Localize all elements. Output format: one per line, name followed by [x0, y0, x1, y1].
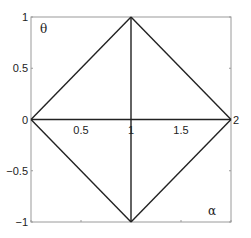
x-tick-label: 1.5	[173, 124, 188, 136]
series-line	[131, 17, 231, 120]
y-tick-label: 0	[22, 114, 28, 126]
chart: −1−0.500.51 0.511.52 θ α	[0, 0, 251, 238]
y-tick-label: 1	[22, 11, 28, 23]
x-tick-label: 2	[233, 114, 239, 126]
x-axis-label: α	[208, 204, 216, 218]
y-tick-label: 0.5	[13, 62, 28, 74]
plot-lines	[31, 17, 231, 222]
y-tick-label: −1	[15, 216, 28, 228]
y-tick-label: −0.5	[6, 165, 28, 177]
y-axis-label: θ	[40, 22, 47, 36]
x-tick-label: 0.5	[73, 124, 88, 136]
